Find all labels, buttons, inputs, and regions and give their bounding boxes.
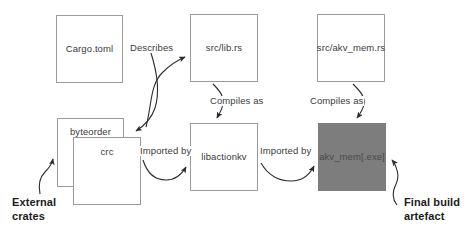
- arrow-external-crates-callout: [39, 159, 53, 194]
- node-cargo-toml-label: Cargo.toml: [66, 44, 113, 54]
- callout-external-crates-line2: crates: [12, 210, 56, 224]
- node-akv-mem-exe-label: akv_mem[.exe]: [319, 152, 385, 162]
- callout-external-crates: External crates: [12, 196, 56, 224]
- edge-label-compiles-as-lib: Compiles as: [209, 96, 264, 106]
- build-pipeline-diagram: Cargo.toml src/lib.rs src/akv_mem.rs byt…: [0, 0, 468, 244]
- node-src-akv-mem-rs[interactable]: src/akv_mem.rs: [317, 14, 385, 82]
- arrow-final-build-callout: [392, 160, 398, 205]
- arrow-describes: [146, 57, 185, 127]
- arrow-imported-by-crates: [143, 160, 186, 180]
- callout-final-build-artefact: Final build artefact: [404, 196, 460, 224]
- arrow-describes-to-crates: [136, 53, 158, 131]
- node-libactionkv[interactable]: libactionkv: [190, 123, 258, 191]
- callout-external-crates-line1: External: [12, 196, 56, 210]
- edge-label-describes: Describes: [129, 43, 174, 53]
- node-cargo-toml[interactable]: Cargo.toml: [56, 15, 123, 83]
- arrow-imported-by-lib: [261, 163, 314, 181]
- edge-label-compiles-as-bin: Compiles as: [309, 96, 364, 106]
- node-src-lib-rs-label: src/lib.rs: [206, 43, 242, 53]
- edge-label-imported-by-crates: Imported by: [139, 146, 192, 156]
- node-byteorder-label: byteorder: [70, 127, 111, 137]
- node-src-lib-rs[interactable]: src/lib.rs: [190, 14, 258, 82]
- node-crc-label: crc: [101, 147, 114, 157]
- callout-final-build-artefact-line1: Final build: [404, 196, 460, 210]
- node-libactionkv-label: libactionkv: [201, 152, 246, 162]
- node-src-akv-mem-rs-label: src/akv_mem.rs: [317, 43, 385, 53]
- node-crc[interactable]: crc: [73, 137, 141, 205]
- edge-label-imported-by-lib: Imported by: [259, 146, 312, 156]
- callout-final-build-artefact-line2: artefact: [404, 210, 460, 224]
- node-akv-mem-exe[interactable]: akv_mem[.exe]: [318, 123, 386, 191]
